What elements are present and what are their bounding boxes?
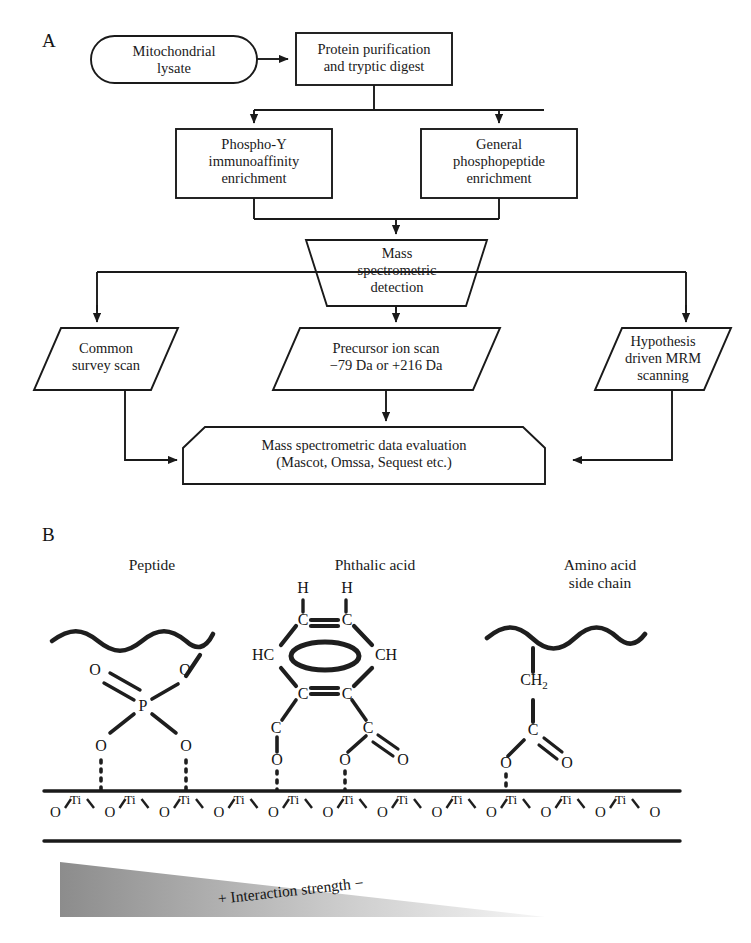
surface-bond-ti-o — [523, 799, 530, 808]
surface-bond-ti-o — [196, 799, 203, 808]
surface-bond-o-ti — [120, 799, 126, 808]
surface-bond-ti-o — [632, 799, 639, 808]
surface-bond-o-ti — [447, 799, 453, 808]
surface-bond-o-ti — [501, 799, 507, 808]
figure-root: A — [0, 0, 751, 943]
surface-bond-ti-o — [578, 799, 585, 808]
surface-bond-o-ti — [610, 799, 616, 808]
surface-bond-ti-o — [142, 799, 149, 808]
surface-bond-ti-o — [360, 799, 367, 808]
surface-bond-ti-o — [251, 799, 258, 808]
surface-bond-o-ti — [229, 799, 235, 808]
surface-bond-o-ti — [392, 799, 398, 808]
surface-bond-ti-o — [305, 799, 312, 808]
surface-bond-o-ti — [65, 799, 71, 808]
surface-bond-ti-o — [469, 799, 476, 808]
surface-bond-ti-o — [87, 799, 94, 808]
surface-bond-ti-o — [414, 799, 421, 808]
surface-bond-o-ti — [338, 799, 344, 808]
surface-bond-layer — [0, 0, 751, 943]
surface-bond-o-ti — [556, 799, 562, 808]
surface-bond-o-ti — [174, 799, 180, 808]
surface-bond-o-ti — [283, 799, 289, 808]
